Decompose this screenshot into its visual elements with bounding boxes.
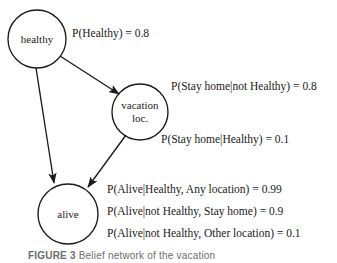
- node-healthy-circle: [8, 10, 66, 68]
- probability-healthy: P(Healthy) = 0.8: [72, 26, 149, 40]
- probability-alive-healthy-any: P(Alive|Healthy, Any location) = 0.99: [107, 182, 282, 196]
- edge-healthy-to-alive: [36, 68, 54, 183]
- figure-caption-title: FIGURE 3: [28, 250, 76, 261]
- probability-stayhome-healthy: P(Stay home|Healthy) = 0.1: [161, 132, 289, 146]
- probability-stayhome-not-healthy: P(Stay home|not Healthy) = 0.8: [171, 79, 317, 93]
- node-vacation-circle: [112, 84, 168, 140]
- edge-healthy-to-vacation: [60, 56, 119, 94]
- edge-vacation-to-alive: [88, 135, 126, 187]
- figure-caption: FIGURE 3 Belief network of the vacation: [28, 250, 215, 263]
- figure-caption-rest: Belief network of the vacation: [76, 250, 216, 261]
- figure-canvas: healthy vacation loc. alive P(Healthy) =…: [0, 0, 337, 263]
- probability-alive-nothealthy-stayhome: P(Alive|not Healthy, Stay home) = 0.9: [107, 204, 283, 218]
- probability-alive-nothealthy-other: P(Alive|not Healthy, Other location) = 0…: [107, 226, 301, 240]
- node-alive-circle: [38, 184, 98, 244]
